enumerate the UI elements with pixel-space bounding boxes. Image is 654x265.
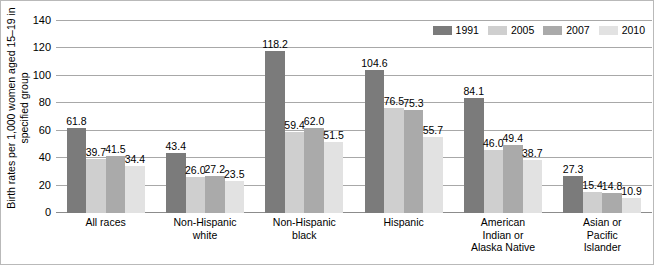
bar[interactable]: 39.7 bbox=[86, 159, 106, 213]
x-axis-category-label-line: Non-Hispanic bbox=[255, 216, 354, 229]
bar[interactable]: 43.4 bbox=[166, 153, 186, 213]
bar-value-label: 39.7 bbox=[86, 147, 106, 158]
bar[interactable]: 118.2 bbox=[265, 51, 285, 213]
bar-group: 84.146.049.438.7 bbox=[464, 21, 542, 213]
bar[interactable]: 84.1 bbox=[464, 98, 484, 213]
bar-value-label: 55.7 bbox=[423, 125, 443, 136]
x-axis-category-label-line: American bbox=[453, 216, 552, 229]
y-axis-tick-label: 100 bbox=[33, 69, 51, 81]
x-axis-category-label-line: Islander bbox=[553, 241, 652, 254]
bar[interactable]: 27.2 bbox=[205, 176, 225, 213]
bar-value-label: 41.5 bbox=[105, 144, 125, 155]
bar-value-label: 51.5 bbox=[323, 130, 343, 141]
bar-value-label: 46.0 bbox=[483, 138, 503, 149]
bar[interactable]: 34.4 bbox=[125, 166, 145, 213]
bar[interactable]: 75.3 bbox=[404, 110, 424, 213]
bar-value-label: 15.4 bbox=[582, 180, 602, 191]
bar-value-label: 26.0 bbox=[185, 165, 205, 176]
bar-value-label: 27.2 bbox=[205, 164, 225, 175]
bar[interactable]: 15.4 bbox=[583, 192, 603, 213]
x-axis-category-label-line: black bbox=[255, 229, 354, 242]
bar[interactable]: 26.0 bbox=[186, 177, 206, 213]
y-axis-tick-label: 0 bbox=[45, 206, 51, 218]
plot-area: 020406080100120140 61.839.741.534.443.42… bbox=[56, 21, 652, 213]
bar-value-label: 84.1 bbox=[464, 86, 484, 97]
bar-value-label: 14.8 bbox=[602, 181, 622, 192]
y-axis-tick-label: 40 bbox=[39, 151, 51, 163]
y-axis-tick-label: 80 bbox=[39, 96, 51, 108]
legend-swatch bbox=[543, 26, 562, 35]
bar-value-label: 59.4 bbox=[284, 120, 304, 131]
bar-value-label: 76.5 bbox=[384, 96, 404, 107]
bar[interactable]: 62.0 bbox=[304, 128, 324, 213]
x-axis-category-label-line: Non-Hispanic bbox=[155, 216, 254, 229]
bar[interactable]: 55.7 bbox=[423, 137, 443, 213]
legend-item[interactable]: 2005 bbox=[488, 25, 534, 36]
x-axis-category-label: Non-Hispanicwhite bbox=[155, 216, 254, 241]
bar[interactable]: 46.0 bbox=[484, 150, 504, 213]
legend: 1991200520072010 bbox=[433, 25, 645, 36]
bar-chart: Birth rates per 1,000 women aged 15–19 i… bbox=[0, 0, 654, 265]
bar-value-label: 118.2 bbox=[262, 39, 288, 50]
bar-value-label: 61.8 bbox=[66, 116, 86, 127]
bar[interactable]: 49.4 bbox=[503, 145, 523, 213]
bar[interactable]: 51.5 bbox=[324, 142, 344, 213]
bar[interactable]: 41.5 bbox=[106, 156, 126, 213]
bars-layer: 61.839.741.534.443.426.027.223.5118.259.… bbox=[56, 21, 652, 213]
bar[interactable]: 14.8 bbox=[602, 193, 622, 213]
x-axis-category-label-line: Indian or bbox=[453, 229, 552, 242]
x-axis-category-label: Asian orPacificIslander bbox=[553, 216, 652, 254]
legend-swatch bbox=[599, 26, 618, 35]
bar-value-label: 38.7 bbox=[522, 148, 542, 159]
x-axis-category-label: AmericanIndian orAlaska Native bbox=[453, 216, 552, 254]
bar-value-label: 75.3 bbox=[403, 98, 423, 109]
bar[interactable]: 104.6 bbox=[365, 70, 385, 213]
x-axis-category-label: All races bbox=[56, 216, 155, 229]
y-axis-title-line-2: specified group bbox=[18, 7, 31, 208]
bar-value-label: 43.4 bbox=[166, 141, 186, 152]
y-axis-tick-label: 120 bbox=[33, 41, 51, 53]
x-axis-category-label-line: Asian or bbox=[553, 216, 652, 229]
legend-label: 2010 bbox=[622, 25, 645, 36]
x-axis-labels: All racesNon-HispanicwhiteNon-Hispanicbl… bbox=[56, 216, 652, 264]
bar[interactable]: 27.3 bbox=[563, 176, 583, 213]
legend-item[interactable]: 2007 bbox=[543, 25, 589, 36]
y-axis-title: Birth rates per 1,000 women aged 15–19 i… bbox=[1, 1, 35, 214]
y-axis-title-line-1: Birth rates per 1,000 women aged 15–19 i… bbox=[5, 7, 18, 208]
bar-value-label: 23.5 bbox=[224, 169, 244, 180]
x-axis-category-label: Non-Hispanicblack bbox=[255, 216, 354, 241]
x-axis-category-label-line: white bbox=[155, 229, 254, 242]
x-axis-category-label-line: Alaska Native bbox=[453, 241, 552, 254]
bar-value-label: 34.4 bbox=[125, 154, 145, 165]
y-axis-tick-label: 140 bbox=[33, 14, 51, 26]
bar-value-label: 104.6 bbox=[361, 58, 387, 69]
legend-swatch bbox=[433, 26, 452, 35]
x-axis-category-label: Hispanic bbox=[354, 216, 453, 229]
bar[interactable]: 38.7 bbox=[523, 160, 543, 213]
bar-group: 118.259.462.051.5 bbox=[265, 21, 343, 213]
legend-swatch bbox=[488, 26, 507, 35]
legend-label: 2007 bbox=[566, 25, 589, 36]
bar[interactable]: 23.5 bbox=[225, 181, 245, 213]
bar-value-label: 27.3 bbox=[563, 164, 583, 175]
bar-group: 43.426.027.223.5 bbox=[166, 21, 244, 213]
bar-group: 61.839.741.534.4 bbox=[67, 21, 145, 213]
bar-group: 104.676.575.355.7 bbox=[365, 21, 443, 213]
bar-group: 27.315.414.810.9 bbox=[563, 21, 641, 213]
x-axis-category-label-line: Pacific bbox=[553, 229, 652, 242]
bar[interactable]: 76.5 bbox=[384, 108, 404, 213]
bar-value-label: 49.4 bbox=[503, 133, 523, 144]
y-axis-tick-label: 20 bbox=[39, 179, 51, 191]
x-axis-category-label-line: All races bbox=[56, 216, 155, 229]
legend-label: 1991 bbox=[456, 25, 479, 36]
bar[interactable]: 10.9 bbox=[622, 198, 642, 213]
y-axis-tick-label: 60 bbox=[39, 124, 51, 136]
bar[interactable]: 61.8 bbox=[67, 128, 87, 213]
legend-item[interactable]: 2010 bbox=[599, 25, 645, 36]
bar-value-label: 62.0 bbox=[304, 116, 324, 127]
bar[interactable]: 59.4 bbox=[285, 132, 305, 213]
legend-item[interactable]: 1991 bbox=[433, 25, 479, 36]
bar-value-label: 10.9 bbox=[621, 186, 641, 197]
legend-label: 2005 bbox=[511, 25, 534, 36]
x-axis-category-label-line: Hispanic bbox=[354, 216, 453, 229]
